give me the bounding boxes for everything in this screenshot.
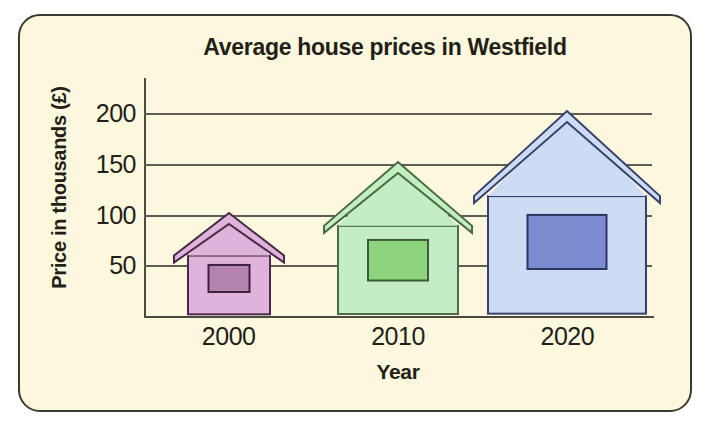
y-axis-tick-labels: 50100150200 <box>60 88 136 316</box>
y-axis-tick-label: 50 <box>66 251 136 280</box>
y-axis-tick-label: 200 <box>66 99 136 128</box>
y-axis-tick-label: 100 <box>66 200 136 229</box>
house-bar-2000 <box>171 211 287 316</box>
y-axis-tick-label: 150 <box>66 150 136 179</box>
x-axis-line <box>144 316 654 318</box>
house-bar-2020 <box>471 109 663 316</box>
x-axis-tick-label: 2010 <box>371 322 425 351</box>
x-axis-title: Year <box>144 360 652 384</box>
x-axis-tick-labels: 200020102020 <box>144 322 652 356</box>
house-window <box>208 265 249 292</box>
x-axis-tick-label: 2000 <box>202 322 256 351</box>
house-window <box>368 240 428 281</box>
chart-title: Average house prices in Westfield <box>20 34 690 61</box>
x-axis-tick-label: 2020 <box>541 322 595 351</box>
plot-area <box>144 88 652 316</box>
house-gable <box>488 113 646 196</box>
house-bar-2010 <box>321 160 475 316</box>
chart-frame: Average house prices in Westfield Price … <box>18 14 692 412</box>
house-window <box>528 215 607 269</box>
